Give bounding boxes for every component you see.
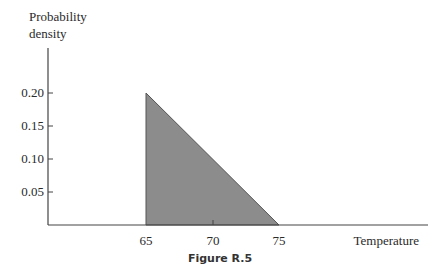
figure-caption: Figure R.5 (188, 252, 252, 265)
y-tick-label: 0.10 (21, 151, 44, 166)
y-tick-label: 0.15 (21, 118, 44, 133)
y-axis-label-line1: Probability (29, 9, 87, 24)
chart: Probability density 0.20 0.15 0.10 0.05 … (0, 0, 448, 274)
x-tick-label: 70 (207, 233, 220, 248)
y-tick-label: 0.05 (21, 184, 44, 199)
y-axis-label-line2: density (29, 26, 67, 41)
y-tick-label: 0.20 (21, 85, 44, 100)
x-tick-label: 65 (140, 233, 153, 248)
x-tick-label: 75 (273, 233, 286, 248)
density-triangle (146, 93, 279, 225)
x-axis-label: Temperature (354, 233, 420, 248)
